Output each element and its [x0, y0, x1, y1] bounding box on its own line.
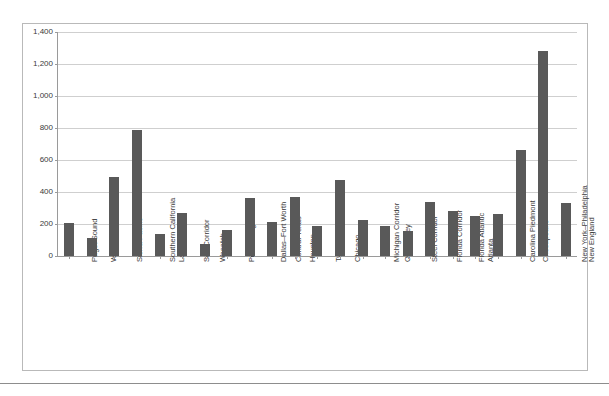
x-axis-tick-mark [498, 256, 499, 259]
bar[interactable] [177, 213, 187, 256]
bar[interactable] [448, 211, 458, 256]
bar-slot: Twin Cities [306, 32, 329, 256]
bar[interactable] [425, 202, 435, 256]
x-axis-tick-mark [521, 256, 522, 259]
x-axis-tick-mark [160, 256, 161, 259]
x-axis-tick-mark [69, 256, 70, 259]
x-axis-tick-mark [543, 256, 544, 259]
x-axis-tick-mark [182, 256, 183, 259]
bar-slot: Wasatch [193, 32, 216, 256]
x-axis-tick-mark [92, 256, 93, 259]
x-axis-tick-mark [250, 256, 251, 259]
bar[interactable] [132, 130, 142, 256]
bar[interactable] [222, 230, 232, 256]
bar-slot: Southern California [126, 32, 149, 256]
bar[interactable] [538, 51, 548, 256]
bar[interactable] [358, 220, 368, 256]
bar[interactable] [493, 214, 503, 256]
x-axis-tick-mark [114, 256, 115, 259]
x-axis-tick-mark [363, 256, 364, 259]
bar[interactable] [312, 226, 322, 256]
y-axis-tick-mark [55, 256, 58, 257]
bar[interactable] [200, 244, 210, 256]
x-axis-tick-mark [272, 256, 273, 259]
bar[interactable] [245, 198, 255, 256]
bar[interactable] [155, 234, 165, 256]
bar[interactable] [109, 177, 119, 256]
bar[interactable] [87, 238, 97, 256]
bar-slot: Front Range [216, 32, 239, 256]
bar-slot: Ohio Valley [374, 32, 397, 256]
bar[interactable] [267, 222, 277, 256]
bar-slot: New York–Philadelphia [532, 32, 555, 256]
chart-frame: 02004006008001,0001,2001,400 Puget Sound… [22, 23, 588, 371]
bar-slot: Houston [284, 32, 307, 256]
bar-slot: Florida Atlantic [442, 32, 465, 256]
x-axis-tick-mark [408, 256, 409, 259]
y-axis-tick-label: 1,400 [33, 28, 53, 36]
bottom-divider [0, 383, 609, 384]
y-axis-tick-label: 0 [49, 252, 53, 260]
x-axis-tick-mark [475, 256, 476, 259]
bar-slot: Florida Corridor [419, 32, 442, 256]
x-axis-tick-mark [227, 256, 228, 259]
bar-slot: Chicago [329, 32, 352, 256]
x-axis-category-label: New England [588, 217, 596, 262]
bar-slot: Sierra Pacific [103, 32, 126, 256]
bar-slot: Carolina Piedmont [487, 32, 510, 256]
y-axis-tick-label: 400 [40, 188, 53, 196]
y-axis-tick-label: 800 [40, 124, 53, 132]
bar-slot: Central Texas [261, 32, 284, 256]
bar-slot: Atlanta [464, 32, 487, 256]
bar-slot: Willamette [81, 32, 104, 256]
bar-slot: New England [554, 32, 577, 256]
x-axis-tick-mark [385, 256, 386, 259]
y-axis-tick-label: 600 [40, 156, 53, 164]
y-axis-tick-label: 1,200 [33, 60, 53, 68]
chart-page: 02004006008001,0001,2001,400 Puget Sound… [0, 0, 609, 396]
y-axis-tick-label: 200 [40, 220, 53, 228]
bar[interactable] [516, 150, 526, 256]
bar[interactable] [380, 226, 390, 256]
x-axis-tick-mark [317, 256, 318, 259]
bar-slot: Chesapeake [509, 32, 532, 256]
x-axis-tick-mark [137, 256, 138, 259]
x-axis-tick-mark [566, 256, 567, 259]
x-axis-tick-mark [453, 256, 454, 259]
bar[interactable] [64, 223, 74, 256]
x-axis-tick-mark [205, 256, 206, 259]
bar[interactable] [470, 216, 480, 256]
bar[interactable] [561, 203, 571, 256]
bar[interactable] [290, 197, 300, 256]
bar-slot: Michigan Corridor [351, 32, 374, 256]
x-axis-tick-mark [430, 256, 431, 259]
bars-group: Puget SoundWillametteSierra PacificSouth… [58, 32, 577, 256]
bar[interactable] [335, 180, 345, 256]
x-axis-tick-mark [295, 256, 296, 259]
bar-slot: Steel Corridor [396, 32, 419, 256]
x-axis-tick-mark [340, 256, 341, 259]
y-axis-tick-label: 1,000 [33, 92, 53, 100]
bar-slot: Dallas–Fort Worth [239, 32, 262, 256]
bar-slot: Las Vegas [148, 32, 171, 256]
plot-area: 02004006008001,0001,2001,400 Puget Sound… [57, 32, 577, 257]
bar[interactable] [403, 231, 413, 256]
bar-slot: Sun Corridor [171, 32, 194, 256]
bar-slot: Puget Sound [58, 32, 81, 256]
